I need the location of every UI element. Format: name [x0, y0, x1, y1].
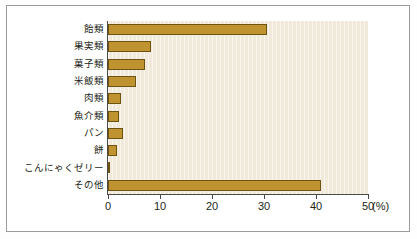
- category-label: パン: [1, 127, 104, 139]
- bar: [108, 93, 121, 104]
- bar-row: [108, 108, 368, 125]
- plot-area: [108, 21, 368, 194]
- category-label: 肉類: [1, 92, 104, 104]
- bar-row: [108, 90, 368, 107]
- x-tick-label: 20: [192, 199, 232, 213]
- bar-row: [108, 159, 368, 176]
- bar: [108, 180, 321, 191]
- category-label: その他: [1, 179, 104, 191]
- y-axis-line: [107, 21, 108, 195]
- x-axis-line: [107, 194, 369, 195]
- bar-row: [108, 125, 368, 142]
- bar: [108, 128, 123, 139]
- bar-series: [108, 21, 368, 194]
- bar: [108, 145, 117, 156]
- category-label: 菓子類: [1, 58, 104, 70]
- bar-chart: 飴類果実類菓子類米飯類肉類魚介類パン餅こんにゃくゼリーその他 010203040…: [0, 0, 417, 239]
- category-label: 飴類: [1, 23, 104, 35]
- bar-row: [108, 177, 368, 194]
- bar: [108, 111, 119, 122]
- x-tick-label: 40: [296, 199, 336, 213]
- category-label: 魚介類: [1, 110, 104, 122]
- category-label: 餅: [1, 144, 104, 156]
- x-tick-label: 0: [88, 199, 128, 213]
- bar-row: [108, 21, 368, 38]
- figure: 飴類果実類菓子類米飯類肉類魚介類パン餅こんにゃくゼリーその他 010203040…: [0, 0, 417, 239]
- bar-row: [108, 38, 368, 55]
- x-tick-label: 30: [244, 199, 284, 213]
- bar: [108, 24, 267, 35]
- bar: [108, 76, 136, 87]
- bar-row: [108, 142, 368, 159]
- x-tick-label: 10: [140, 199, 180, 213]
- bar: [108, 162, 110, 173]
- category-axis-labels: 飴類果実類菓子類米飯類肉類魚介類パン餅こんにゃくゼリーその他: [0, 21, 104, 194]
- bar-row: [108, 56, 368, 73]
- x-axis-unit-label: (%): [372, 199, 389, 213]
- bar: [108, 41, 151, 52]
- bar: [108, 59, 145, 70]
- bar-row: [108, 73, 368, 90]
- category-label: こんにゃくゼリー: [1, 162, 104, 174]
- category-label: 果実類: [1, 40, 104, 52]
- category-label: 米飯類: [1, 75, 104, 87]
